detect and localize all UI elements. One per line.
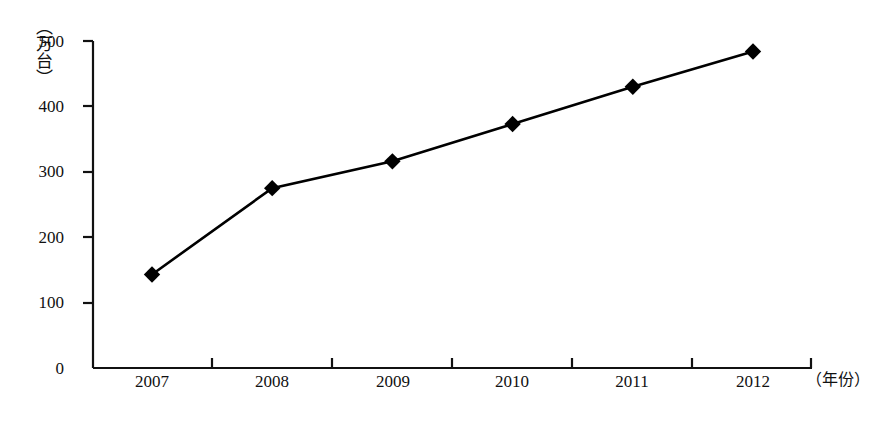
series-markers bbox=[144, 43, 761, 282]
data-point-2008[interactable] bbox=[264, 180, 280, 196]
data-point-2009[interactable] bbox=[384, 153, 400, 169]
series-line bbox=[152, 51, 753, 274]
data-point-2012[interactable] bbox=[745, 43, 761, 59]
data-point-2011[interactable] bbox=[625, 79, 641, 95]
plot-area bbox=[0, 0, 889, 428]
y-axis-ticks bbox=[83, 41, 93, 303]
x-axis-ticks bbox=[212, 358, 811, 368]
line-chart: （万台） （年份） 500 400 300 200 100 0 2007 200… bbox=[0, 0, 889, 428]
axis-lines bbox=[93, 41, 812, 368]
data-point-2007[interactable] bbox=[144, 266, 160, 282]
data-point-2010[interactable] bbox=[504, 116, 520, 132]
